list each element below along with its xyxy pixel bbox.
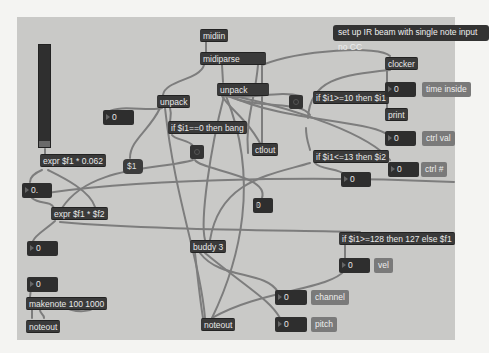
if-ge10-object[interactable]: if $i1>=10 then $i1 <box>313 91 389 104</box>
vertical-slider[interactable] <box>38 44 51 148</box>
number-vel[interactable]: 0 <box>339 258 370 273</box>
number-float-out[interactable]: 0. <box>22 183 52 198</box>
buddy-object[interactable]: buddy 3 <box>190 240 226 253</box>
number-mid-small[interactable]: 0 <box>253 198 273 213</box>
number-if-le13-out[interactable]: 0 <box>341 172 371 187</box>
makenote-object[interactable]: makenote 100 1000 <box>26 297 107 310</box>
midiin-object[interactable]: midiin <box>200 29 228 42</box>
midiparse-object[interactable]: midiparse <box>200 52 266 65</box>
clocker-object[interactable]: clocker <box>385 57 418 70</box>
number-ctrl-num[interactable]: 0 <box>388 162 419 177</box>
number-unpack-out[interactable]: 0 <box>103 110 134 125</box>
noteout-object-main[interactable]: noteout <box>201 318 235 331</box>
print-object[interactable]: print <box>385 108 408 121</box>
label-pitch: pitch <box>311 317 337 332</box>
label-channel: channel <box>311 290 349 305</box>
unpack-object-left[interactable]: unpack <box>157 95 190 108</box>
dollar-one-message[interactable]: $1 <box>123 159 143 174</box>
number-ctrl-val[interactable]: 0 <box>385 131 416 146</box>
label-vel: vel <box>374 258 393 273</box>
unpack-object-right[interactable]: unpack <box>217 83 269 96</box>
number-makenote-in[interactable]: 0 <box>27 277 58 292</box>
number-expr-out[interactable]: 0 <box>27 241 58 256</box>
label-time-inside: time inside <box>422 82 471 97</box>
noteout-object-left[interactable]: noteout <box>26 320 60 333</box>
patch-comment: set up IR beam with single note input no… <box>333 25 489 41</box>
slider-knob[interactable] <box>39 141 50 147</box>
expr-scale-object[interactable]: expr $f1 * 0.062 <box>40 154 106 167</box>
bang-button[interactable] <box>190 145 204 159</box>
if-clip128-object[interactable]: if $i1>=128 then 127 else $f1 <box>339 232 455 245</box>
bang-button-right[interactable] <box>289 95 303 109</box>
label-ctrl-val: ctrl val <box>422 131 455 146</box>
if-zero-bang-object[interactable]: if $i1==0 then bang <box>168 121 247 134</box>
expr-mult-object[interactable]: expr $f1 * $f2 <box>51 207 108 220</box>
if-le13-object[interactable]: if $i1<=13 then $i2 <box>313 150 389 163</box>
label-ctrl-num: ctrl # <box>421 162 447 177</box>
ctlout-object[interactable]: ctlout <box>252 143 278 156</box>
number-channel[interactable]: 0 <box>275 290 307 305</box>
number-time-inside[interactable]: 0 <box>385 82 416 97</box>
number-pitch[interactable]: 0 <box>275 317 307 332</box>
